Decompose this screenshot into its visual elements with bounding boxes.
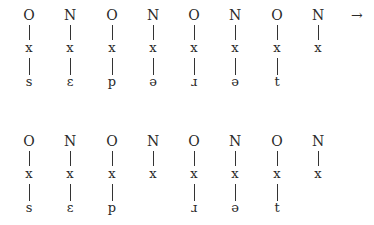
x-slot: x — [102, 40, 122, 56]
association-line — [235, 58, 236, 75]
onset-node: O — [267, 133, 287, 149]
x-slot: x — [225, 40, 245, 56]
association-line — [29, 184, 30, 201]
column-1: O x s — [19, 7, 39, 107]
nucleus-node: N — [60, 133, 80, 149]
nucleus-node: N — [308, 7, 328, 23]
segment: ə — [225, 200, 245, 216]
association-line — [29, 58, 30, 75]
association-line — [235, 25, 236, 40]
x-slot: x — [19, 166, 39, 182]
column-2: N x ɛ — [60, 133, 80, 225]
column-4: N x — [143, 133, 163, 225]
segment: t — [267, 74, 287, 90]
association-line — [29, 25, 30, 40]
nucleus-node: N — [308, 133, 328, 149]
association-line — [277, 25, 278, 40]
column-6: N x ə — [225, 7, 245, 107]
x-slot: x — [19, 40, 39, 56]
x-slot: x — [60, 166, 80, 182]
nucleus-node: N — [143, 133, 163, 149]
column-7: O x t — [267, 7, 287, 107]
association-line — [277, 184, 278, 201]
segment: ə — [225, 74, 245, 90]
association-line — [70, 184, 71, 201]
x-slot: x — [267, 166, 287, 182]
x-slot: x — [267, 40, 287, 56]
onset-node: O — [19, 133, 39, 149]
x-slot: x — [102, 166, 122, 182]
x-slot: x — [225, 166, 245, 182]
column-2: N x ɛ — [60, 7, 80, 107]
column-4: N x ə — [143, 7, 163, 107]
association-line — [235, 151, 236, 166]
association-line — [153, 58, 154, 75]
association-line — [153, 151, 154, 166]
onset-node: O — [184, 133, 204, 149]
onset-node: O — [102, 133, 122, 149]
column-1: O x s — [19, 133, 39, 225]
onset-node: O — [19, 7, 39, 23]
x-slot: x — [184, 40, 204, 56]
association-line — [70, 58, 71, 75]
association-line — [194, 151, 195, 166]
x-slot: x — [143, 166, 163, 182]
onset-node: O — [267, 7, 287, 23]
association-line — [194, 25, 195, 40]
column-3: O x p — [102, 133, 122, 225]
nucleus-node: N — [225, 133, 245, 149]
nucleus-node: N — [225, 7, 245, 23]
column-6: N x ə — [225, 133, 245, 225]
nucleus-node: N — [60, 7, 80, 23]
association-line — [277, 58, 278, 75]
x-slot: x — [308, 40, 328, 56]
diagram-row-input: O x s N x ɛ O x p N x ə O x ɹ N x ə — [0, 7, 374, 107]
x-slot: x — [143, 40, 163, 56]
segment: p — [102, 200, 122, 216]
association-line — [112, 151, 113, 166]
association-line — [194, 58, 195, 75]
association-line — [29, 151, 30, 166]
segment: ɹ — [184, 200, 204, 216]
association-line — [112, 184, 113, 201]
diagram-row-output: O x s N x ɛ O x p N x O x ɹ N x ə O — [0, 133, 374, 225]
onset-node: O — [184, 7, 204, 23]
association-line — [112, 58, 113, 75]
association-line — [153, 25, 154, 40]
column-8: N x — [308, 133, 328, 225]
association-line — [318, 25, 319, 40]
segment: s — [19, 74, 39, 90]
association-line — [318, 151, 319, 166]
association-line — [194, 184, 195, 201]
column-8: N x — [308, 7, 328, 107]
x-slot: x — [184, 166, 204, 182]
nucleus-node: N — [143, 7, 163, 23]
segment: t — [267, 200, 287, 216]
association-line — [277, 151, 278, 166]
segment: ə — [143, 74, 163, 90]
arrow-right-icon: → — [351, 7, 363, 23]
segment: p — [102, 74, 122, 90]
column-5: O x ɹ — [184, 7, 204, 107]
association-line — [70, 25, 71, 40]
segment: s — [19, 200, 39, 216]
segment: ɛ — [60, 200, 80, 216]
onset-node: O — [102, 7, 122, 23]
segment: ɹ — [184, 74, 204, 90]
association-line — [112, 25, 113, 40]
association-line — [70, 151, 71, 166]
x-slot: x — [308, 166, 328, 182]
x-slot: x — [60, 40, 80, 56]
column-7: O x t — [267, 133, 287, 225]
segment: ɛ — [60, 74, 80, 90]
column-5: O x ɹ — [184, 133, 204, 225]
column-3: O x p — [102, 7, 122, 107]
association-line — [235, 184, 236, 201]
